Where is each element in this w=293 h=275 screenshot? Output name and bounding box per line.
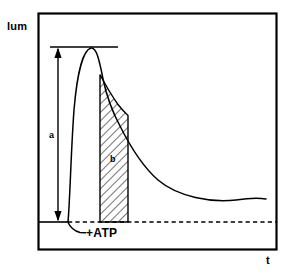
atp-event-label: +ATP bbox=[86, 226, 117, 240]
y-axis-label: lum bbox=[7, 20, 27, 32]
amplitude-label-a: a bbox=[49, 130, 54, 140]
plot-frame bbox=[39, 14, 277, 250]
luminescence-curve bbox=[68, 48, 266, 222]
area-b-hatched bbox=[100, 75, 128, 223]
area-label-b: b bbox=[110, 154, 116, 164]
atp-leader-line bbox=[68, 222, 86, 233]
amplitude-arrow-head-bottom bbox=[54, 211, 61, 222]
x-axis-label: t bbox=[266, 254, 270, 266]
luminescence-figure: lum t a b +ATP bbox=[0, 0, 293, 275]
plot-canvas bbox=[0, 0, 293, 275]
amplitude-arrow-head-top bbox=[54, 48, 61, 59]
